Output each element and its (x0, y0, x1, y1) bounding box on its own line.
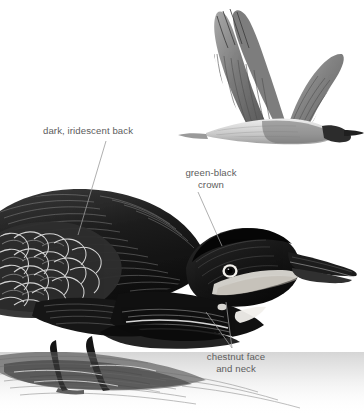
annotation-green-black-crown: green-black crown (168, 167, 254, 190)
bird-eye (222, 264, 237, 278)
illustration-plate: dark, iridescent back green-black crown … (0, 0, 364, 415)
annotation-dark-iridescent-back: dark, iridescent back (43, 125, 133, 137)
annotation-chestnut-face-and-neck: chestnut face and neck (182, 351, 290, 374)
